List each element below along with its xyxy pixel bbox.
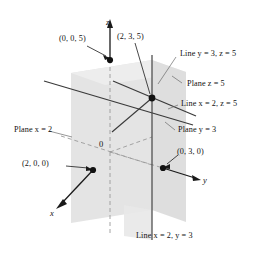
annotation-line-x2-y3: Line x = 2, y = 3 bbox=[136, 232, 193, 240]
figure-3d-planes-intersection: (0, 0, 5) (2, 3, 5) Line y = 3, z = 5 Pl… bbox=[0, 0, 264, 256]
axis-label-y: y bbox=[203, 176, 207, 185]
axis-x-arrowhead bbox=[56, 199, 67, 209]
axis-y-arrowhead bbox=[192, 175, 201, 181]
annotation-line-y3-z5: Line y = 3, z = 5 bbox=[180, 50, 236, 58]
origin-label: 0 bbox=[99, 140, 103, 149]
leader-plane-x2 bbox=[49, 131, 72, 137]
annotation-line-x2-z5: Line x = 2, z = 5 bbox=[181, 100, 237, 108]
point-dot-z5 bbox=[107, 57, 113, 63]
axis-label-x: x bbox=[50, 209, 54, 218]
point-label-0-0-5: (0, 0, 5) bbox=[59, 35, 86, 43]
point-label-0-3-0: (0, 3, 0) bbox=[177, 148, 204, 156]
axis-label-z: z bbox=[106, 18, 109, 27]
annotation-plane-x2: Plane x = 2 bbox=[14, 126, 52, 134]
point-dot-235 bbox=[149, 95, 156, 102]
point-label-2-3-5: (2, 3, 5) bbox=[117, 33, 144, 41]
point-dot-y3 bbox=[160, 165, 166, 171]
plane-y3-shape bbox=[152, 60, 186, 222]
leader-p-z5 bbox=[87, 46, 106, 56]
annotation-plane-z5: Plane z = 5 bbox=[187, 80, 225, 88]
point-label-2-0-0: (2, 0, 0) bbox=[22, 160, 49, 168]
point-dot-x2 bbox=[90, 167, 96, 173]
annotation-plane-y3: Plane y = 3 bbox=[178, 126, 216, 134]
